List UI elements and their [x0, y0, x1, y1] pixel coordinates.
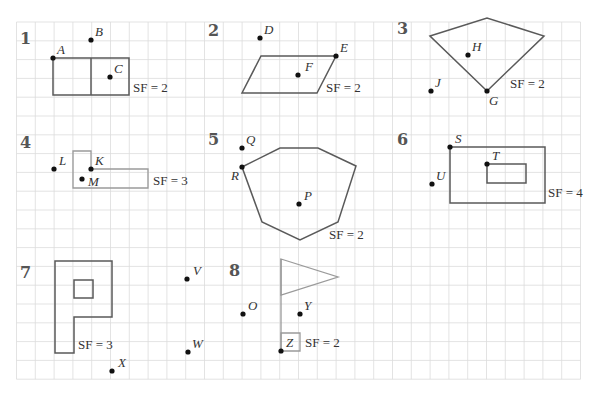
point-label: M: [87, 174, 100, 189]
point-label: S: [455, 131, 462, 146]
center-point-q: [239, 145, 244, 150]
center-point-b: [88, 37, 93, 42]
center-point-t: [484, 161, 489, 166]
center-point-k: [88, 166, 93, 171]
center-point-f: [295, 72, 300, 77]
point-label: P: [303, 188, 312, 203]
point-label: L: [58, 153, 66, 168]
center-point-c: [107, 74, 112, 79]
center-point-a: [50, 55, 55, 60]
center-point-h: [465, 52, 470, 57]
center-point-y: [297, 311, 302, 316]
question-number: 8: [229, 261, 240, 280]
point-label: K: [94, 153, 105, 168]
point-label: E: [339, 40, 348, 55]
scale-factor-label: SF = 3: [78, 337, 113, 352]
point-label: B: [95, 24, 103, 39]
point-label: F: [304, 59, 314, 74]
question-number: 3: [397, 19, 408, 38]
question-number: 6: [397, 130, 408, 149]
point-label: R: [230, 168, 239, 183]
scale-factor-label: SF = 2: [326, 80, 361, 95]
question-number: 1: [20, 29, 31, 48]
question-number: 2: [208, 21, 219, 40]
point-label: Z: [286, 335, 294, 350]
point-label: A: [56, 42, 65, 57]
center-point-w: [185, 349, 190, 354]
center-point-s: [447, 144, 452, 149]
point-label: Q: [246, 132, 256, 147]
center-point-v: [184, 276, 189, 281]
enlargement-worksheet: 1ABCSF = 22DEFSF = 23HJGSF = 24LKMSF = 3…: [0, 0, 601, 394]
scale-factor-label: SF = 2: [510, 76, 545, 91]
question-number: 5: [208, 130, 219, 149]
scale-factor-label: SF = 3: [153, 173, 188, 188]
center-point-l: [51, 166, 56, 171]
scale-factor-label: SF = 2: [133, 80, 168, 95]
center-point-p: [296, 201, 301, 206]
center-point-d: [257, 35, 262, 40]
scale-factor-label: SF = 4: [548, 185, 583, 200]
center-point-m: [79, 176, 84, 181]
center-point-z: [278, 348, 283, 353]
center-point-r: [239, 164, 244, 169]
point-label: O: [248, 298, 258, 313]
point-label: D: [263, 22, 274, 37]
scale-factor-label: SF = 2: [329, 227, 364, 242]
point-label: H: [471, 39, 482, 54]
center-point-x: [109, 368, 114, 373]
point-label: T: [492, 148, 500, 163]
center-point-j: [428, 88, 433, 93]
question-number: 4: [20, 133, 31, 152]
center-point-o: [240, 311, 245, 316]
point-label: U: [436, 168, 447, 183]
scale-factor-label: SF = 2: [305, 335, 340, 350]
center-point-u: [429, 181, 434, 186]
point-label: G: [489, 93, 499, 108]
point-label: C: [114, 61, 123, 76]
point-label: X: [117, 355, 127, 370]
question-number: 7: [20, 263, 31, 282]
point-label: W: [192, 336, 204, 351]
center-point-e: [333, 53, 338, 58]
